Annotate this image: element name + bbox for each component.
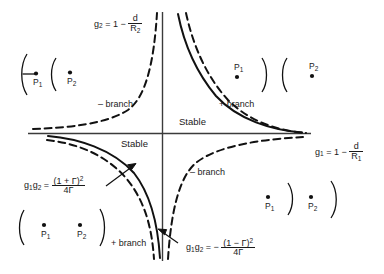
resonator-icon-upper-left	[22, 54, 72, 95]
stability-diagram-figure: g2 = 1 − d R2 g1 = 1 − d R1 – branch + b…	[0, 0, 384, 274]
label-upper-left-branch: – branch	[98, 100, 133, 109]
equation-positive-branch: g1g2 = (1 + Γ)2 4Γ	[24, 176, 85, 196]
x-axis-label-rel: = 1 −	[326, 147, 347, 157]
y-axis-label: g2 = 1 − d R2	[94, 14, 142, 34]
eq-neg-fraction: (1 − Γ)2 4Γ	[221, 238, 255, 258]
focus-dot-lr-p1	[266, 195, 270, 199]
equation-negative-branch: g1g2 = − (1 − Γ)2 4Γ	[186, 238, 255, 258]
plabel-lr-p1: P1	[265, 201, 274, 212]
label-stable-upper: Stable	[179, 117, 206, 127]
label-upper-right-branch: + branch	[219, 100, 254, 109]
eq-pos-denominator: 4Γ	[52, 186, 86, 195]
y-axis-label-rel: = 1 −	[105, 19, 126, 29]
resonator-icon-upper-right	[235, 58, 314, 92]
x-axis-label-denominator: R1	[349, 152, 363, 162]
plabel-ur-p1: P1	[234, 62, 243, 73]
plabel-ul-p1: P1	[33, 77, 42, 88]
quadrant-1-curves	[178, 13, 306, 133]
focus-dot-lr-p2	[309, 195, 313, 199]
curve-solid-q1	[178, 14, 302, 133]
focus-dot-ul-p2	[68, 70, 72, 74]
diagram-canvas	[0, 0, 384, 274]
resonator-icon-lower-right	[266, 181, 336, 218]
mirror-arc-lr-right	[331, 181, 336, 218]
eq-pos-rel: =	[44, 180, 49, 190]
y-axis-label-denominator: R2	[128, 24, 142, 34]
mirror-arc-ll-right	[100, 209, 105, 246]
x-axis-label: g1 = 1 − d R1	[315, 142, 363, 162]
plabel-ll-p1: P1	[41, 229, 50, 240]
x-axis-label-var-sub: 1	[320, 150, 324, 157]
label-lower-left-branch: + branch	[111, 239, 146, 248]
mirror-arc-ul-right	[52, 58, 57, 91]
resonator-icon-lower-left	[20, 209, 105, 246]
focus-dot-ul-p1	[34, 71, 38, 75]
mirror-arc-ll-left	[20, 210, 25, 245]
plabel-ul-p2: P2	[67, 76, 76, 87]
eq-neg-denominator: 4Γ	[221, 248, 255, 257]
focus-dot-ll-p1	[42, 223, 46, 227]
x-axis-label-fraction: d R1	[349, 142, 363, 162]
focus-dot-ur-p1	[235, 75, 239, 79]
plabel-ll-p2: P2	[77, 229, 86, 240]
plabel-lr-p2: P2	[308, 201, 317, 212]
axes-group	[28, 12, 311, 261]
y-axis-label-fraction: d R2	[128, 14, 142, 34]
label-stable-lower: Stable	[121, 139, 148, 149]
y-axis-label-var-sub: 2	[99, 22, 103, 29]
label-lower-right-branch: – branch	[190, 168, 225, 177]
mirror-arc-ur-right	[283, 58, 288, 92]
curve-dashed-q1	[186, 13, 306, 133]
eq-pos-fraction: (1 + Γ)2 4Γ	[52, 176, 86, 196]
focus-dot-ur-p2	[310, 74, 314, 78]
focus-dot-ll-p2	[78, 223, 82, 227]
plabel-ur-p2: P2	[309, 61, 318, 72]
mirror-arc-lr-left	[288, 183, 293, 215]
eq-neg-rel: = −	[206, 242, 219, 252]
mirror-arc-ur-left	[262, 58, 267, 92]
